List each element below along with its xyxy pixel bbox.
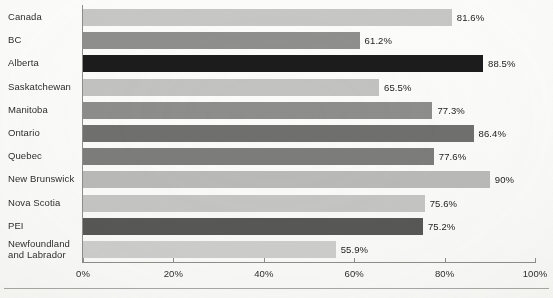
plot-area: Canada81.6%BC61.2%Alberta88.5%Saskatchew… (0, 0, 553, 298)
bar-value-label: 77.3% (437, 105, 464, 116)
category-label: Newfoundland and Labrador (8, 239, 78, 260)
bar-row: Manitoba77.3% (0, 99, 553, 122)
bar (83, 195, 425, 212)
x-axis-tick (83, 258, 84, 263)
bar-row: Nova Scotia75.6% (0, 192, 553, 215)
bar (83, 9, 452, 26)
bar-value-label: 61.2% (365, 35, 392, 46)
x-axis-tick-label: 60% (345, 268, 364, 279)
category-label: New Brunswick (8, 174, 78, 185)
page-rule-line (4, 288, 549, 289)
category-label: Ontario (8, 128, 78, 139)
bar (83, 148, 434, 165)
x-axis-tick (445, 258, 446, 263)
bar (83, 171, 490, 188)
bar-row: Alberta88.5% (0, 52, 553, 75)
bar-row: Quebec77.6% (0, 145, 553, 168)
bar-value-label: 65.5% (384, 82, 411, 93)
bar (83, 218, 423, 235)
bar-value-label: 55.9% (341, 244, 368, 255)
bar-chart-figure: Canada81.6%BC61.2%Alberta88.5%Saskatchew… (0, 0, 553, 298)
bar-row: Ontario86.4% (0, 122, 553, 145)
x-axis-line (82, 262, 536, 263)
bar-row: New Brunswick90% (0, 168, 553, 191)
category-label: Nova Scotia (8, 198, 78, 209)
x-axis-tick-label: 20% (164, 268, 183, 279)
category-label: Quebec (8, 151, 78, 162)
x-axis-tick-label: 40% (254, 268, 273, 279)
bar-value-label: 75.2% (428, 221, 455, 232)
category-label: Canada (8, 12, 78, 23)
category-label: Saskatchewan (8, 82, 78, 93)
bar (83, 241, 336, 258)
bar-row: PEI75.2% (0, 215, 553, 238)
x-axis-tick (264, 258, 265, 263)
bar-value-label: 90% (495, 174, 514, 185)
x-axis-tick (173, 258, 174, 263)
x-axis-tick-label: 0% (76, 268, 90, 279)
bar-row: BC61.2% (0, 29, 553, 52)
bar (83, 125, 474, 142)
x-axis-tick (354, 258, 355, 263)
category-label: BC (8, 35, 78, 46)
x-axis-tick-label: 80% (435, 268, 454, 279)
bar-value-label: 86.4% (479, 128, 506, 139)
category-label: Manitoba (8, 105, 78, 116)
x-axis-tick-label: 100% (523, 268, 548, 279)
bar-value-label: 75.6% (430, 198, 457, 209)
category-label: PEI (8, 221, 78, 232)
category-label: Alberta (8, 58, 78, 69)
bar (83, 102, 432, 119)
bar (83, 55, 483, 72)
x-axis-tick (535, 258, 536, 263)
bar-value-label: 77.6% (439, 151, 466, 162)
bar-row: Canada81.6% (0, 6, 553, 29)
bar-row: Saskatchewan65.5% (0, 76, 553, 99)
bar-value-label: 81.6% (457, 12, 484, 23)
bar-value-label: 88.5% (488, 58, 515, 69)
bar (83, 32, 360, 49)
bar (83, 79, 379, 96)
